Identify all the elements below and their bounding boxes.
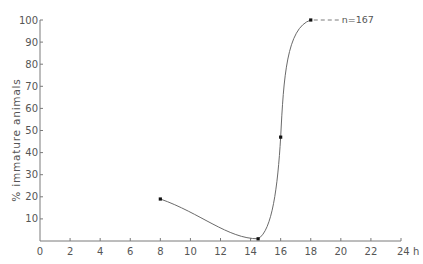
- y-tick-label: 100: [19, 15, 38, 26]
- y-tick-label: 70: [25, 81, 38, 92]
- data-point: [309, 18, 312, 21]
- y-tick-label: 50: [25, 125, 38, 136]
- x-tick-label: 22: [365, 246, 378, 257]
- x-tick-label: 8: [157, 246, 163, 257]
- x-tick-label: 10: [184, 246, 197, 257]
- y-tick-label: 60: [25, 103, 38, 114]
- x-tick-label: 24 h: [397, 246, 419, 257]
- y-axis-label: % immature animals: [10, 78, 22, 201]
- line-chart: 102030405060708090100 024681012141618202…: [0, 0, 423, 264]
- y-tick-label: 20: [25, 191, 38, 202]
- y-tick-label: 10: [25, 213, 38, 224]
- data-point: [257, 237, 260, 240]
- x-tick-label: 12: [214, 246, 227, 257]
- data-curve: [160, 20, 310, 239]
- x-tick-label: 20: [334, 246, 347, 257]
- data-point: [279, 136, 282, 139]
- x-axis: 024681012141618202224 h: [37, 238, 419, 257]
- y-tick-label: 90: [25, 37, 38, 48]
- x-tick-label: 6: [127, 246, 133, 257]
- x-tick-label: 0: [37, 246, 43, 257]
- data-point: [159, 197, 162, 200]
- annotation-label: n=167: [342, 14, 374, 25]
- x-tick-label: 14: [244, 246, 257, 257]
- x-tick-label: 16: [274, 246, 287, 257]
- y-tick-label: 40: [25, 147, 38, 158]
- y-axis: 102030405060708090100: [19, 15, 43, 242]
- x-tick-label: 4: [97, 246, 103, 257]
- chart-container: 102030405060708090100 024681012141618202…: [0, 0, 423, 264]
- y-tick-label: 30: [25, 169, 38, 180]
- x-tick-label: 2: [67, 246, 73, 257]
- x-tick-label: 18: [304, 246, 317, 257]
- y-tick-label: 80: [25, 59, 38, 70]
